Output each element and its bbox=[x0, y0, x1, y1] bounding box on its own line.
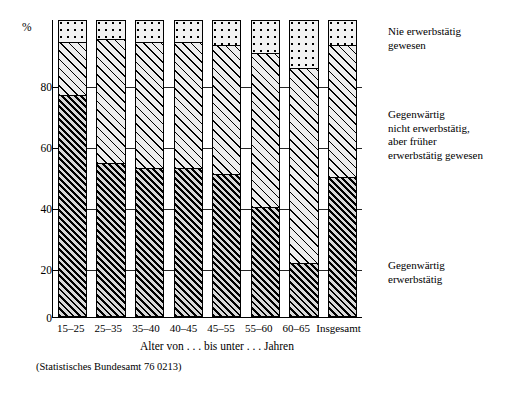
legend-label-line-3: aber früher bbox=[388, 135, 483, 149]
x-tick-label: 25–35 bbox=[90, 322, 128, 335]
bar-segment bbox=[175, 21, 202, 42]
bar-segment bbox=[136, 42, 163, 169]
stacked-bar[interactable] bbox=[58, 20, 87, 317]
bar-segment bbox=[329, 45, 356, 178]
legend-entry-nie-erwerbstaetig: Nie erwerbstätig gewesen bbox=[388, 25, 461, 52]
stacked-bar[interactable] bbox=[135, 20, 164, 317]
bar-series-group bbox=[53, 20, 362, 317]
bar-segment bbox=[213, 45, 240, 175]
bar-segment bbox=[175, 168, 202, 316]
bar-segment bbox=[175, 42, 202, 169]
plot-area bbox=[52, 20, 362, 318]
legend-label-line-1: Nie erwerbstätig bbox=[388, 25, 461, 39]
bar-segment bbox=[97, 21, 124, 39]
legend-entry-nicht-erwerbstaetig: Gegenwärtig nicht erwerbstätig, aber frü… bbox=[388, 108, 483, 162]
x-tick-label: 35–40 bbox=[127, 322, 165, 335]
bar-segment bbox=[59, 42, 86, 95]
bar-segment bbox=[290, 68, 317, 263]
y-axis: 80 60 40 20 0 bbox=[0, 0, 52, 395]
legend-entry-gegenwaertig-erwerbstaetig: Gegenwärtig erwerbstätig bbox=[388, 259, 445, 286]
stacked-bar[interactable] bbox=[251, 20, 280, 317]
bar-segment bbox=[59, 95, 86, 316]
bar-segment bbox=[329, 21, 356, 45]
y-tick-label-20: 20 bbox=[26, 265, 52, 276]
bar-slot bbox=[53, 20, 92, 317]
x-tick-label: 55–60 bbox=[240, 322, 278, 335]
bar-slot bbox=[92, 20, 131, 317]
source-note: (Statistisches Bundesamt 76 0213) bbox=[36, 361, 182, 373]
bar-slot bbox=[208, 20, 247, 317]
bar-slot bbox=[323, 20, 362, 317]
legend-label-line-4: erwerbstätig gewesen bbox=[388, 149, 483, 163]
x-tick-label: 60–65 bbox=[277, 322, 315, 335]
x-tick-label: 40–45 bbox=[165, 322, 203, 335]
bar-segment bbox=[252, 21, 279, 53]
y-tick-label-60: 60 bbox=[26, 143, 52, 154]
stacked-bar[interactable] bbox=[289, 20, 318, 317]
legend-label-line-2: erwerbstätig bbox=[388, 273, 445, 287]
bar-slot bbox=[130, 20, 169, 317]
bar-segment bbox=[252, 53, 279, 206]
bar-slot bbox=[246, 20, 285, 317]
chart-container: % 80 60 40 20 0 15–2525–3535–4040–4545–5… bbox=[0, 0, 523, 395]
legend-label-line-1: Gegenwärtig bbox=[388, 259, 445, 273]
bar-slot bbox=[285, 20, 324, 317]
x-tick-label: 15–25 bbox=[52, 322, 90, 335]
bar-segment bbox=[97, 39, 124, 163]
stacked-bar[interactable] bbox=[328, 20, 357, 317]
bar-segment bbox=[213, 174, 240, 316]
stacked-bar[interactable] bbox=[212, 20, 241, 317]
y-tick-label-0: 0 bbox=[26, 313, 52, 324]
bar-segment bbox=[213, 21, 240, 45]
bar-segment bbox=[329, 177, 356, 316]
bar-slot bbox=[169, 20, 208, 317]
bar-segment bbox=[252, 207, 279, 316]
y-tick-label-40: 40 bbox=[26, 204, 52, 215]
x-axis-title: Alter von . . . bis unter . . . Jahren bbox=[52, 340, 382, 353]
bar-segment bbox=[136, 21, 163, 42]
stacked-bar[interactable] bbox=[96, 20, 125, 317]
bar-segment bbox=[136, 168, 163, 316]
bar-segment bbox=[59, 21, 86, 42]
legend-label-line-2: gewesen bbox=[388, 39, 461, 53]
bar-segment bbox=[290, 21, 317, 68]
legend-label-line-2: nicht erwerbstätig, bbox=[388, 122, 483, 136]
bar-segment bbox=[290, 263, 317, 316]
stacked-bar[interactable] bbox=[174, 20, 203, 317]
y-tick-label-80: 80 bbox=[26, 82, 52, 93]
bar-segment bbox=[97, 163, 124, 316]
x-tick-label: Insgesamt bbox=[315, 322, 362, 335]
legend-label-line-1: Gegenwärtig bbox=[388, 108, 483, 122]
x-axis-tick-labels: 15–2525–3535–4040–4545–5555–6060–65Insge… bbox=[52, 322, 362, 335]
x-tick-label: 45–55 bbox=[202, 322, 240, 335]
